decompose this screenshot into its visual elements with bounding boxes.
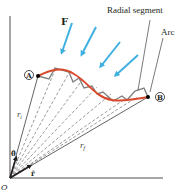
force-arrow-1 xyxy=(62,23,72,52)
arc-leader xyxy=(150,38,163,92)
r-final-line xyxy=(10,97,148,178)
radial-dashed-lines xyxy=(10,70,137,178)
r-initial-label: ri xyxy=(17,111,22,120)
point-a-label: A xyxy=(25,71,34,81)
axes xyxy=(10,16,163,178)
point-b-dot xyxy=(146,95,150,99)
svg-text:B: B xyxy=(157,93,163,102)
radial-arc-segments xyxy=(38,68,148,101)
theta-hat-label: θ̂ xyxy=(11,149,16,158)
point-b-label: B xyxy=(156,93,165,103)
force-field-arrows xyxy=(62,23,138,75)
radial-segment-leader xyxy=(138,20,150,90)
svg-text:A: A xyxy=(25,71,32,80)
origin-label: O xyxy=(1,183,8,191)
r-final-label: rf xyxy=(80,142,86,152)
radial-segment-label: Radial segment xyxy=(107,5,163,15)
work-path-diagram: F Radial segment Arc A B ri rf θ̂ r̂ O xyxy=(0,0,179,191)
force-arrow-2 xyxy=(82,27,96,54)
r-hat-label: r̂ xyxy=(31,169,35,178)
point-a-dot xyxy=(36,74,40,78)
force-label: F xyxy=(61,16,68,27)
force-arrow-3 xyxy=(101,42,120,66)
unit-vectors xyxy=(10,158,30,178)
force-arrow-4 xyxy=(116,55,138,75)
arc-label: Arc xyxy=(161,27,175,37)
